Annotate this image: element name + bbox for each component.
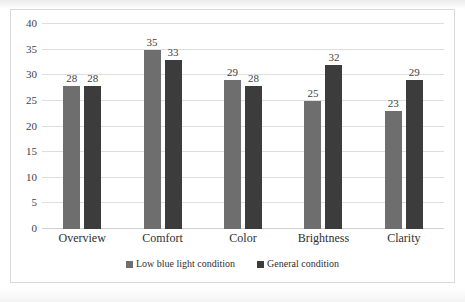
legend-swatch-icon	[257, 261, 264, 268]
bar: 28	[245, 86, 262, 230]
x-axis-category-label: Color	[203, 232, 283, 245]
bar-value-label: 28	[66, 73, 77, 84]
bar: 25	[304, 101, 321, 229]
x-axis-category-label: Comfort	[122, 232, 202, 245]
x-axis-category-label: Overview	[42, 232, 122, 245]
bar-value-label: 32	[328, 52, 339, 63]
bar: 23	[385, 111, 402, 229]
bar-value-label: 29	[409, 67, 420, 78]
bar-groups: 28283533292825322329	[42, 24, 444, 229]
bar: 32	[325, 65, 342, 229]
bar-group: 2532	[283, 24, 363, 229]
x-axis-category-label: Clarity	[364, 232, 444, 245]
bar-group: 2828	[42, 24, 122, 229]
plot-wrapper: 4035302520151050 28283533292825322329 Ov…	[11, 10, 454, 282]
x-axis-labels: OverviewComfortColorBrightnessClarity	[42, 232, 444, 245]
bar-value-label: 28	[248, 73, 259, 84]
bar-value-label: 23	[388, 98, 399, 109]
y-axis-tick-label: 15	[26, 146, 37, 157]
bar-group: 2329	[364, 24, 444, 229]
bar: 29	[406, 80, 423, 229]
y-axis-tick-label: 25	[26, 94, 37, 105]
y-axis-tick-label: 0	[32, 223, 38, 234]
bar-value-label: 35	[147, 37, 158, 48]
bar: 28	[84, 86, 101, 230]
bar-group: 2928	[203, 24, 283, 229]
y-axis-tick-label: 35	[26, 43, 37, 54]
bar: 29	[224, 80, 241, 229]
y-axis-tick-label: 10	[26, 171, 37, 182]
y-axis-tick-label: 30	[26, 69, 37, 80]
bar-group: 3533	[122, 24, 202, 229]
chart-legend: Low blue light conditionGeneral conditio…	[11, 259, 454, 269]
legend-item[interactable]: General condition	[257, 259, 339, 269]
x-axis-category-label: Brightness	[283, 232, 363, 245]
bar: 35	[144, 50, 161, 229]
bar-value-label: 28	[87, 73, 98, 84]
legend-item[interactable]: Low blue light condition	[126, 259, 235, 269]
bar-value-label: 29	[227, 67, 238, 78]
y-axis-tick-label: 5	[32, 197, 38, 208]
bar-value-label: 33	[168, 47, 179, 58]
y-axis-tick-label: 20	[26, 120, 37, 131]
plot-area: 4035302520151050 28283533292825322329	[42, 24, 444, 229]
bar: 33	[165, 60, 182, 229]
y-axis-tick-label: 40	[26, 18, 37, 29]
legend-label: General condition	[267, 259, 339, 269]
legend-label: Low blue light condition	[136, 259, 235, 269]
legend-swatch-icon	[126, 261, 133, 268]
bar-value-label: 25	[307, 88, 318, 99]
chart-container: 4035302520151050 28283533292825322329 Ov…	[10, 9, 455, 283]
bar: 28	[63, 86, 80, 230]
